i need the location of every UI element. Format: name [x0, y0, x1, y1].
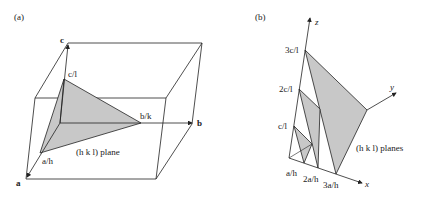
panel-a: (a) c b a c/l b/k a/h (h k l) plane — [14, 12, 202, 188]
z-intercept-2: 2c/l — [279, 84, 293, 94]
a-axis — [27, 123, 60, 177]
axis-label-b: b — [197, 118, 202, 128]
hkl-planes — [294, 50, 367, 174]
axis-label-x: x — [364, 179, 369, 189]
y-axis — [367, 93, 396, 110]
panel-b-tag: (b) — [255, 12, 266, 22]
intercept-a: a/h — [42, 156, 53, 166]
panel-b: (b) z y x 3c/l 2c/l c/l a/h 2a/h 3a/h (h… — [255, 12, 404, 190]
axis-label-z: z — [314, 17, 319, 27]
axis-label-a: a — [16, 178, 21, 188]
crystal-plane-diagram: (a) c b a c/l b/k a/h (h k l) plane (b) — [0, 0, 424, 198]
panel-a-tag: (a) — [14, 12, 24, 22]
z-intercept-3: 3c/l — [285, 45, 299, 55]
x-intercept-1: a/h — [286, 168, 297, 178]
x-intercept-3: 3a/h — [323, 180, 339, 190]
planes-label: (h k l) planes — [356, 143, 404, 153]
x-intercept-2: 2a/h — [303, 174, 319, 184]
z-intercept-1: c/l — [278, 121, 287, 131]
hkl-plane — [40, 79, 141, 153]
axis-label-c: c — [60, 35, 64, 45]
axis-label-y: y — [389, 82, 394, 92]
intercept-b: b/k — [140, 111, 152, 121]
intercept-c: c/l — [68, 69, 77, 79]
plane-label: (h k l) plane — [76, 147, 120, 157]
